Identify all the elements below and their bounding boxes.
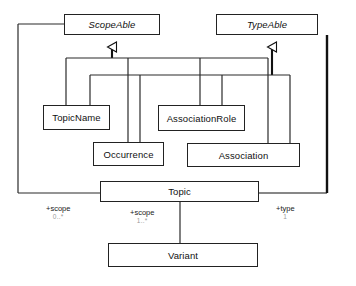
role-name-scope-variant: +scope — [130, 208, 154, 217]
class-name-occurrence: Occurrence — [103, 149, 153, 160]
association-label-scope-variant: +scope 1..* — [130, 208, 154, 226]
association-type-right — [259, 35, 327, 193]
class-box-typeable[interactable]: TypeAble — [216, 14, 318, 35]
class-box-association[interactable]: Association — [187, 143, 300, 167]
class-name-scopeable: ScopeAble — [89, 19, 136, 30]
class-box-topicname[interactable]: TopicName — [43, 105, 110, 130]
class-box-topic[interactable]: Topic — [100, 181, 259, 202]
association-label-scope-left: +scope 0..* — [46, 204, 70, 222]
class-box-scopeable[interactable]: ScopeAble — [64, 14, 160, 35]
class-name-topicname: TopicName — [52, 112, 100, 123]
class-name-typeable: TypeAble — [247, 19, 287, 30]
class-box-occurrence[interactable]: Occurrence — [93, 142, 164, 166]
role-name-type-right: +type — [276, 204, 295, 213]
multiplicity-scope-variant: 1..* — [130, 217, 154, 225]
uml-class-diagram: ScopeAble (left route) ===== --> TypeAbl… — [0, 0, 356, 286]
class-box-variant[interactable]: Variant — [108, 243, 258, 267]
class-name-topic: Topic — [168, 186, 191, 197]
multiplicity-scope-left: 0..* — [46, 213, 70, 221]
class-name-variant: Variant — [168, 250, 198, 261]
class-name-association: Association — [219, 150, 269, 161]
role-name-scope-left: +scope — [46, 204, 70, 213]
class-name-associationrole: AssociationRole — [167, 113, 237, 124]
class-box-associationrole[interactable]: AssociationRole — [158, 105, 245, 131]
association-label-type-right: +type 1 — [276, 204, 295, 222]
multiplicity-type-right: 1 — [276, 213, 295, 221]
